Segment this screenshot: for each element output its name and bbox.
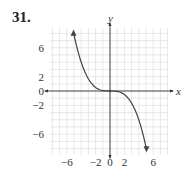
- x-axis-label: x: [175, 85, 181, 97]
- x-tick-label: −2: [90, 156, 102, 168]
- y-tick-label: 6: [39, 42, 45, 54]
- y-tick-label: −2: [32, 99, 44, 111]
- curve-arrow-up-icon: [71, 30, 77, 36]
- x-axis-arrow-icon: [44, 90, 48, 93]
- curve-arrow-down-icon: [144, 146, 150, 152]
- function-graph: xy −6−2026620−2−6: [0, 0, 190, 172]
- y-tick-label: −6: [32, 128, 44, 140]
- x-tick-label: −6: [61, 156, 73, 168]
- x-axis-arrow-icon: [170, 90, 174, 93]
- y-axis-label: y: [107, 12, 113, 24]
- x-tick-label: 2: [122, 156, 128, 168]
- origin-point: [109, 90, 112, 93]
- tick-labels: −6−2026620−2−6: [32, 42, 156, 168]
- y-tick-label: 0: [39, 85, 45, 97]
- x-tick-label: 6: [150, 156, 156, 168]
- y-tick-label: 2: [39, 71, 45, 83]
- x-tick-label: 0: [107, 156, 113, 168]
